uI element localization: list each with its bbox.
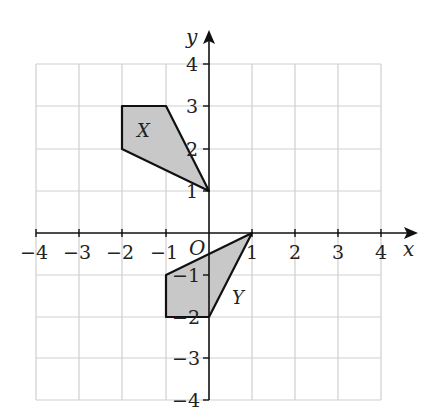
x-tick-label: 3 — [332, 241, 344, 263]
y-tick-label: −1 — [172, 264, 200, 286]
y-axis-label: y — [185, 25, 198, 49]
shape-x-label: X — [135, 120, 151, 141]
y-tick-label: 4 — [186, 53, 198, 75]
x-tick-label: 2 — [289, 241, 301, 263]
x-tick-label: 1 — [246, 241, 258, 263]
x-tick-label: −4 — [20, 241, 48, 263]
y-tick-label: 3 — [186, 95, 198, 117]
x-tick-label: −1 — [150, 241, 178, 263]
x-axis-label: x — [403, 237, 414, 261]
x-axis — [36, 227, 418, 239]
coordinate-diagram: x y O −4 −3 −2 −1 1 2 3 4 4 3 2 1 −1 −2 … — [0, 0, 433, 418]
y-tick-label: 2 — [186, 138, 198, 160]
x-tick-label: −2 — [106, 241, 134, 263]
x-tick-label: 4 — [375, 241, 387, 263]
shape-y-label: Y — [232, 287, 246, 308]
y-axis — [203, 30, 215, 400]
y-tick-label: 1 — [186, 180, 198, 202]
y-tick-label: −2 — [172, 306, 200, 328]
y-tick-label: −3 — [172, 347, 200, 369]
y-tick-labels: 4 3 2 1 −1 −2 −3 −4 — [172, 53, 200, 411]
y-tick-label: −4 — [172, 389, 200, 411]
x-tick-label: −3 — [63, 241, 91, 263]
origin-label: O — [189, 236, 205, 260]
